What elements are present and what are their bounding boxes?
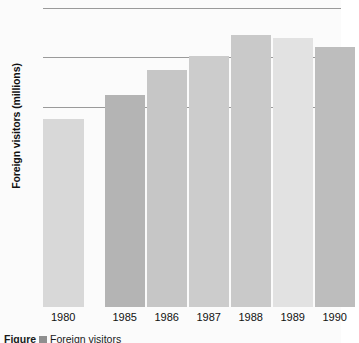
x-axis-labels: 1980198519861987198819891990 [43,311,341,329]
bar-1986 [147,70,188,307]
bar-1989 [273,38,314,307]
figure-caption: Figure Foreign visitors [4,333,341,343]
x-tick-label-1990: 1990 [309,311,359,323]
bar-1987 [189,56,230,307]
caption-text: Foreign visitors [50,333,121,343]
caption-figure-label: Figure [4,333,36,343]
bar-1985 [105,95,146,307]
bar-1990 [315,47,356,307]
bar-1980 [43,119,84,307]
plot-area: 0102030405060 [43,8,341,307]
gridline-60 [43,8,341,9]
bar-1988 [231,35,272,307]
y-axis-title: Foreign visitors (millions) [10,26,22,226]
x-tick-label-1980: 1980 [37,311,90,323]
caption-swatch-icon [39,336,47,343]
